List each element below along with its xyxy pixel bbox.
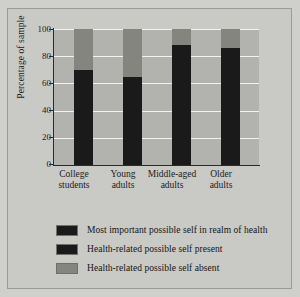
- y-axis-title: Percentage of sample: [16, 0, 26, 116]
- legend-label: Most important possible self in realm of…: [87, 225, 267, 235]
- bar-segment: [74, 70, 93, 165]
- bar-segment: [172, 29, 191, 45]
- y-tick-label-60: 60: [29, 79, 51, 88]
- legend-item-present: Health-related possible self present: [56, 240, 286, 258]
- chart-legend: Most important possible self in realm of…: [56, 221, 286, 278]
- plot-area: [54, 29, 259, 165]
- bar-segment: [123, 77, 142, 165]
- legend-label: Health-related possible self absent: [87, 263, 219, 273]
- bar-segment: [172, 45, 191, 165]
- legend-swatch-icon: [56, 263, 78, 274]
- x-label-older-adults: Older adults: [186, 169, 256, 191]
- y-tick-label-0: 0: [29, 160, 51, 169]
- bar-segment: [74, 29, 93, 70]
- y-tick-label-40: 40: [29, 106, 51, 115]
- y-tick-label-80: 80: [29, 52, 51, 61]
- x-label-line-1: Older: [186, 169, 256, 180]
- y-axis-ticks: 100 80 60 40 20 0: [26, 0, 51, 297]
- bar-college-students: [74, 29, 93, 165]
- bar-segment: [123, 29, 142, 77]
- y-tick-label-100: 100: [29, 25, 51, 34]
- figure-container: Percentage of sample 100 80 60 40 20 0 C…: [0, 0, 300, 297]
- x-label-line-2: adults: [186, 180, 256, 191]
- bar-segment: [221, 29, 240, 48]
- x-axis-line: [53, 165, 260, 166]
- legend-item-absent: Health-related possible self absent: [56, 259, 286, 277]
- bar-older-adults: [221, 29, 240, 165]
- legend-label: Health-related possible self present: [87, 244, 223, 254]
- bar-young-adults: [123, 29, 142, 165]
- legend-swatch-icon: [56, 225, 78, 236]
- legend-item-most-important: Most important possible self in realm of…: [56, 221, 286, 239]
- y-tick-label-20: 20: [29, 133, 51, 142]
- bar-middle-aged-adults: [172, 29, 191, 165]
- legend-swatch-icon: [56, 244, 78, 255]
- bar-segment: [221, 48, 240, 165]
